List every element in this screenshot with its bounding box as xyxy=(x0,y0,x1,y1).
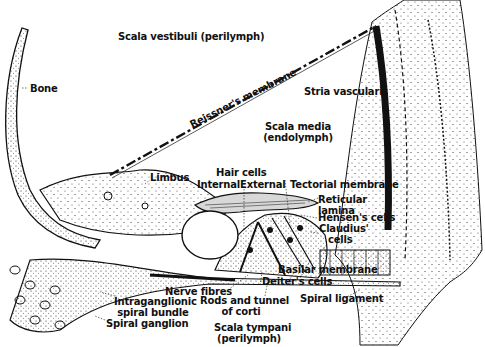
label-stria-vascularis: Stria vascularis xyxy=(304,86,388,97)
label-spiral-ligament: Spiral ligament xyxy=(300,293,383,304)
label-external: External xyxy=(240,179,285,190)
label-bone: Bone xyxy=(30,83,58,94)
label-intraganglionic-line1: Intraganglionic xyxy=(114,296,192,307)
label-claudius-line1: Claudius' xyxy=(319,223,369,234)
label-intraganglionic: Intraganglionic spiral bundle xyxy=(114,296,192,318)
label-intraganglionic-line2: spiral bundle xyxy=(114,307,192,318)
label-scala-media: Scala media (endolymph) xyxy=(258,121,338,143)
label-scala-media-line1: Scala media xyxy=(258,121,338,132)
label-internal: Internal xyxy=(197,179,240,190)
label-claudius-line2: cells xyxy=(319,234,369,245)
label-scala-tympani-line2: (perilymph) xyxy=(214,333,284,344)
label-scala-vestibuli: Scala vestibuli (perilymph) xyxy=(118,31,264,42)
label-rods-tunnel: Rods and tunnel of corti xyxy=(200,295,282,317)
cochlea-diagram: Scala vestibuli (perilymph) Bone Reissne… xyxy=(0,0,485,347)
label-scala-tympani: Scala tympani (perilymph) xyxy=(214,322,284,344)
label-claudius-cells: Claudius' cells xyxy=(319,223,369,245)
label-rods-line2: of corti xyxy=(200,306,282,317)
label-tectorial-membrane: Tectorial membrane xyxy=(290,179,399,190)
label-reticular-lamina-line1: Reticular xyxy=(318,194,367,205)
label-scala-tympani-line1: Scala tympani xyxy=(214,322,284,333)
label-scala-media-line2: (endolymph) xyxy=(258,132,338,143)
label-hensens-cells: Hensen's cells xyxy=(318,212,395,223)
label-spiral-ganglion: Spiral ganglion xyxy=(106,318,188,329)
label-basilar-membrane: Basilar membrane xyxy=(278,264,378,275)
label-limbus: Limbus xyxy=(150,172,189,183)
label-rods-line1: Rods and tunnel xyxy=(200,295,282,306)
label-hair-cells: Hair cells xyxy=(216,167,266,178)
label-deiters-cells: Deiter's cells xyxy=(262,276,332,287)
